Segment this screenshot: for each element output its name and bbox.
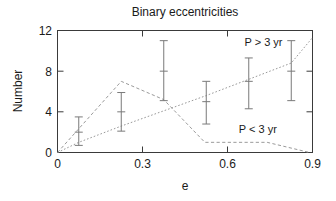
series-label-p-lt-3yr: P < 3 yr [239, 123, 277, 135]
error-bar-point-6 [287, 41, 295, 101]
series-p-gt-3yr-line [58, 38, 313, 153]
y-axis-title: Number [11, 70, 25, 113]
x-tick-label-0.6: 0.6 [219, 157, 236, 171]
binary-eccentricities-chart: Binary eccentricities 0 4 8 12 Number [0, 0, 336, 201]
x-tick-label-0: 0 [54, 157, 61, 171]
error-bar-point-2 [117, 93, 125, 132]
y-tick-label-8: 8 [45, 65, 52, 79]
y-tick-label-4: 4 [45, 105, 52, 119]
error-bar-point-5 [245, 58, 253, 109]
x-tick-label-0.3: 0.3 [134, 157, 151, 171]
series-p-lt-3yr-line [58, 81, 310, 152]
x-tick-label-0.9: 0.9 [304, 157, 321, 171]
error-bar-point-3 [160, 41, 168, 101]
series-label-p-gt-3yr: P > 3 yr [245, 36, 283, 48]
error-bar-point-4 [202, 81, 210, 124]
y-tick-label-12: 12 [39, 24, 53, 38]
chart-figure: Binary eccentricities 0 4 8 12 Number [0, 0, 336, 201]
chart-title: Binary eccentricities [132, 5, 239, 19]
x-axis-title: e [182, 179, 189, 193]
y-tick-label-0: 0 [45, 146, 52, 160]
